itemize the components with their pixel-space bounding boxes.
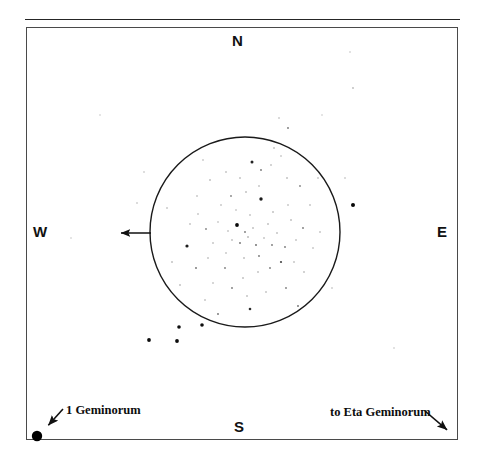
chart-frame-box xyxy=(26,27,458,440)
cardinal-label-south: S xyxy=(234,419,244,434)
cardinal-label-east: E xyxy=(437,224,447,239)
annotation-label-1-geminorum: 1 Geminorum xyxy=(66,404,141,417)
cardinal-label-north: N xyxy=(232,33,243,48)
annotation-label-eta-geminorum: to Eta Geminorum xyxy=(330,406,431,419)
star-chart-figure: N S W E 1 Geminorum to Eta Geminorum xyxy=(0,0,485,465)
top-divider-rule xyxy=(25,19,460,20)
cardinal-label-west: W xyxy=(33,224,47,239)
